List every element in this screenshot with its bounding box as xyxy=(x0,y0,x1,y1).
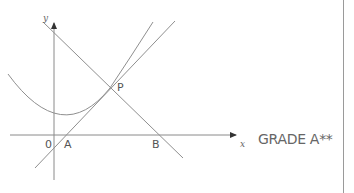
y-axis-label: y xyxy=(43,14,48,23)
curve xyxy=(8,22,153,115)
point-A-label: A xyxy=(64,139,72,150)
origin-label: 0 xyxy=(45,139,52,150)
x-axis-label: x xyxy=(240,140,245,149)
grade-annotation: GRADE A** xyxy=(258,132,333,146)
graph-canvas xyxy=(0,0,354,193)
point-P-label: P xyxy=(117,82,124,93)
point-B-label: B xyxy=(152,139,160,150)
page-edge-divider xyxy=(343,0,344,193)
